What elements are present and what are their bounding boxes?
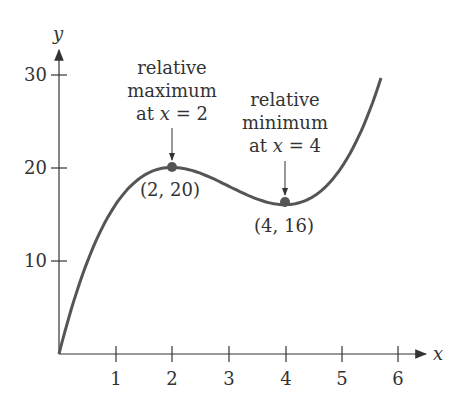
x-axis-label: x: [433, 343, 443, 364]
x-tick-label: 1: [110, 368, 121, 389]
chart: x y 1 2 3 4 5 6 10 20 30 relative maximu…: [0, 0, 469, 412]
function-curve: [59, 78, 381, 354]
x-tick-label: 6: [392, 368, 403, 389]
y-tick-label: 20: [24, 157, 47, 178]
x-tick-label: 2: [166, 368, 177, 389]
max-label-line1: relative: [137, 57, 207, 78]
max-point-label: (2, 20): [140, 179, 200, 200]
min-label-line2: minimum: [242, 112, 328, 133]
relative-maximum-point: [167, 162, 177, 172]
min-point-label: (4, 16): [254, 215, 314, 236]
x-tick-label: 4: [280, 368, 291, 389]
min-label-line1: relative: [250, 89, 320, 110]
min-label-line3: at x = 4: [249, 135, 321, 156]
relative-minimum-point: [280, 197, 290, 207]
x-tick-label: 5: [336, 368, 347, 389]
x-tick-label: 3: [223, 368, 234, 389]
max-label-line3: at x = 2: [136, 103, 208, 124]
max-label-line2: maximum: [127, 80, 216, 101]
y-tick-label: 10: [24, 250, 47, 271]
y-tick-label: 30: [24, 64, 47, 85]
y-axis-label: y: [52, 23, 64, 44]
